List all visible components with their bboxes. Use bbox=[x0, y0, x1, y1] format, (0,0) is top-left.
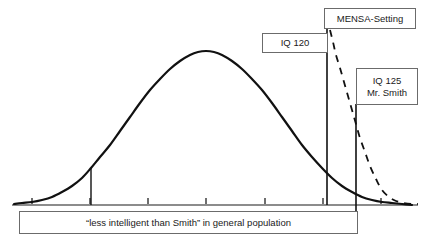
callout-iq125-person: Mr. Smith bbox=[367, 87, 407, 99]
population-bell-curve bbox=[14, 51, 412, 205]
axis-group bbox=[12, 198, 418, 205]
callout-iq125-value: IQ 125 bbox=[373, 75, 402, 87]
callout-iq-120: IQ 120 bbox=[262, 33, 328, 53]
iq-distribution-figure: MENSA-Setting IQ 120 IQ 125 Mr. Smith “l… bbox=[0, 0, 424, 245]
mensa-setting-dashed-curve bbox=[330, 30, 418, 204]
x-axis-ticks bbox=[32, 198, 381, 204]
population-caption-box: “less intelligent than Smith” in general… bbox=[19, 211, 358, 234]
callout-iq120-label: IQ 120 bbox=[281, 37, 310, 49]
distribution-plot bbox=[0, 0, 424, 245]
population-caption-text: “less intelligent than Smith” in general… bbox=[86, 217, 291, 228]
callout-iq-125-mr-smith: IQ 125 Mr. Smith bbox=[356, 68, 418, 105]
callout-mensa-setting: MENSA-Setting bbox=[324, 8, 416, 29]
callout-mensa-label: MENSA-Setting bbox=[337, 13, 404, 25]
